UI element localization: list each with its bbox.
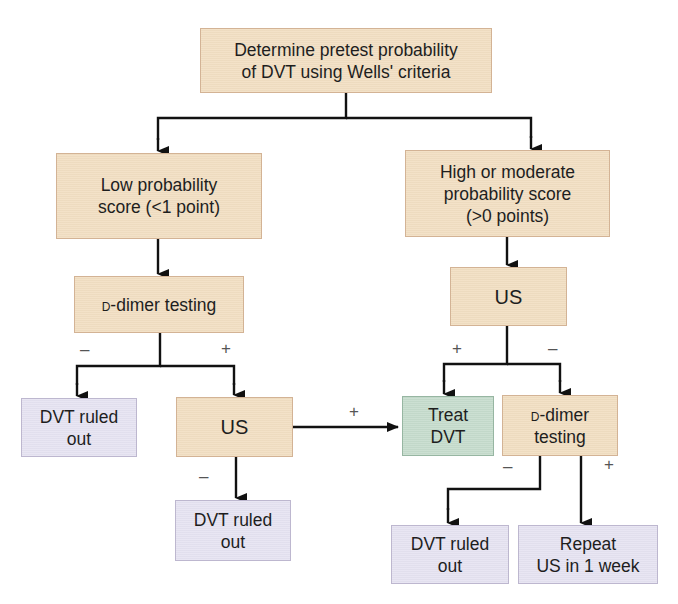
- ruled-out-mid-line1: DVT ruled: [194, 509, 272, 531]
- low-probability-node: Low probability score (<1 point): [56, 153, 262, 239]
- ddimer-right-negative-sign: –: [503, 458, 512, 475]
- ddimer-testing-node-left: d-dimer testing: [74, 276, 244, 333]
- low-probability-line2: score (<1 point): [98, 196, 220, 218]
- ddimer-left-positive-sign: +: [221, 340, 231, 357]
- start-node-wells-criteria: Determine pretest probability of DVT usi…: [200, 28, 492, 93]
- ultrasound-node-right: US: [450, 267, 567, 326]
- ruled-out-left-line2: out: [67, 428, 91, 450]
- us-mid-positive-sign: +: [349, 403, 359, 420]
- dvt-ruled-out-node-mid: DVT ruled out: [175, 500, 291, 561]
- high-probability-line1: High or moderate: [440, 161, 575, 183]
- ruled-out-mid-line2: out: [221, 531, 245, 553]
- us-right-positive-sign: +: [452, 340, 462, 357]
- us-mid-negative-sign: –: [199, 468, 208, 485]
- ruled-out-right-line1: DVT ruled: [411, 533, 489, 555]
- repeat-line2: US in 1 week: [536, 555, 639, 577]
- start-node-line1: Determine pretest probability: [234, 39, 458, 61]
- high-probability-line2: probability score: [444, 183, 571, 205]
- ddimer-right-positive-sign: +: [604, 456, 614, 473]
- repeat-us-node: Repeat US in 1 week: [518, 525, 658, 584]
- ruled-out-left-line1: DVT ruled: [40, 406, 118, 428]
- ultrasound-node-mid: US: [176, 397, 293, 457]
- dvt-ruled-out-node-left: DVT ruled out: [21, 398, 137, 457]
- ruled-out-right-line2: out: [438, 555, 462, 577]
- ddimer-right-line1: d-dimer: [531, 404, 589, 426]
- low-probability-line1: Low probability: [101, 174, 218, 196]
- us-right-label: US: [495, 286, 523, 308]
- us-right-negative-sign: –: [548, 340, 557, 357]
- ddimer-right-line2: testing: [534, 426, 586, 448]
- high-probability-node: High or moderate probability score (>0 p…: [405, 150, 610, 237]
- ddimer-left-negative-sign: –: [80, 341, 89, 358]
- ddimer-testing-node-right: d-dimer testing: [502, 395, 618, 456]
- treat-line2: DVT: [431, 426, 466, 448]
- treat-dvt-node: Treat DVT: [402, 396, 494, 456]
- dvt-ruled-out-node-right: DVT ruled out: [391, 525, 509, 584]
- ddimer-left-label: d-dimer testing: [102, 294, 217, 316]
- us-mid-label: US: [221, 416, 249, 438]
- start-node-line2: of DVT using Wells' criteria: [242, 61, 451, 83]
- repeat-line1: Repeat: [560, 533, 616, 555]
- treat-line1: Treat: [428, 404, 468, 426]
- high-probability-line3: (>0 points): [466, 205, 549, 227]
